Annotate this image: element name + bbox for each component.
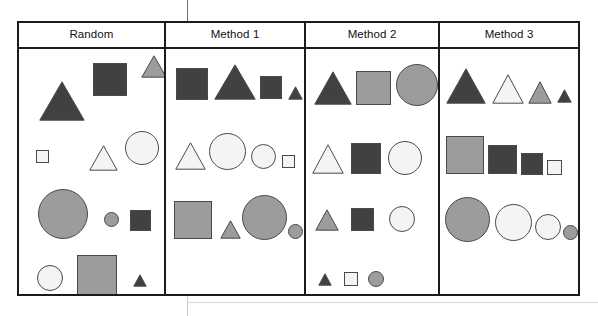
shape-comparison-figure: Random Method 1 Method 2 Method 3 [0, 0, 598, 316]
triangle-dark [446, 68, 486, 104]
column-header-label: Method 1 [211, 29, 260, 41]
triangle-dark [39, 81, 85, 121]
square-light [344, 272, 358, 286]
panel-cell-method3 [440, 49, 578, 294]
triangle-dark [314, 71, 352, 105]
circle-light [388, 141, 422, 175]
circle-medium [368, 271, 384, 287]
panel-cell-method1 [166, 49, 306, 294]
square-light [547, 160, 562, 175]
column-header-method3: Method 3 [440, 23, 578, 47]
triangle-light [89, 145, 118, 171]
circle-medium [104, 212, 119, 227]
circle-light [535, 214, 561, 240]
column-header-label: Method 2 [348, 29, 397, 41]
circle-medium [563, 225, 578, 240]
shape-panel-method3 [440, 49, 578, 294]
circle-light [125, 131, 159, 165]
square-dark [521, 153, 543, 175]
bottom-rule [187, 302, 598, 303]
panel-cell-random [19, 49, 166, 294]
table-header-row: Random Method 1 Method 2 Method 3 [19, 23, 578, 49]
square-medium [446, 136, 484, 174]
shape-panel-method2 [306, 49, 438, 294]
square-medium [77, 255, 117, 294]
bottom-connector-tick [187, 296, 188, 316]
circle-medium [288, 224, 303, 239]
circle-medium [396, 64, 438, 106]
panel-cell-method2 [306, 49, 440, 294]
column-header-method2: Method 2 [306, 23, 440, 47]
triangle-light [492, 74, 524, 104]
circle-light [251, 144, 276, 169]
triangle-medium [141, 55, 166, 78]
square-medium [174, 201, 212, 239]
square-dark [130, 210, 151, 231]
triangle-dark [318, 273, 332, 286]
square-dark [93, 63, 127, 96]
circle-medium [38, 189, 88, 239]
top-connector-tick [187, 0, 188, 22]
circle-medium [242, 195, 287, 240]
square-dark [176, 68, 208, 100]
column-header-label: Method 3 [485, 29, 534, 41]
circle-light [209, 133, 246, 170]
circle-light [389, 206, 415, 232]
triangle-medium [528, 81, 552, 104]
column-header-random: Random [19, 23, 166, 47]
triangle-light [175, 142, 206, 170]
comparison-table: Random Method 1 Method 2 Method 3 [17, 21, 580, 296]
square-medium [356, 71, 391, 105]
shape-panel-method1 [166, 49, 304, 294]
triangle-medium [220, 220, 241, 239]
square-light [36, 150, 49, 163]
triangle-medium [315, 209, 339, 231]
shape-panel-random [19, 49, 164, 294]
circle-medium [445, 197, 490, 242]
triangle-dark [133, 274, 147, 287]
triangle-light [312, 144, 344, 174]
column-header-label: Random [69, 29, 113, 41]
square-dark [351, 143, 381, 174]
square-light [282, 155, 295, 168]
square-dark [351, 208, 374, 231]
triangle-dark [288, 86, 303, 100]
square-dark [488, 145, 517, 174]
triangle-dark [557, 89, 572, 103]
square-dark [260, 76, 282, 99]
column-header-method1: Method 1 [166, 23, 306, 47]
circle-light [37, 265, 63, 291]
triangle-dark [214, 64, 256, 100]
circle-light [495, 204, 532, 241]
table-body-row [19, 49, 578, 294]
